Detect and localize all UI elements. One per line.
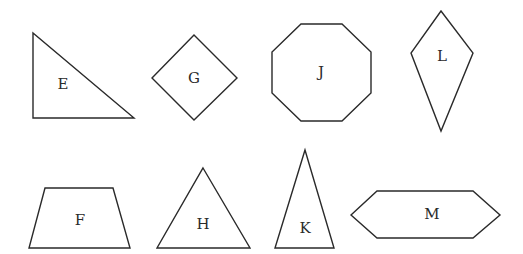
shape-g: G bbox=[152, 35, 237, 120]
shape-e-outline bbox=[33, 33, 134, 118]
shape-l-label: L bbox=[437, 47, 447, 65]
shape-h-label: H bbox=[196, 215, 209, 233]
shapes-diagram: E G J L F H K M bbox=[0, 0, 523, 254]
shape-k-label: K bbox=[299, 219, 311, 237]
shape-g-label: G bbox=[188, 69, 200, 87]
shape-l-outline bbox=[411, 11, 473, 131]
shape-f-label: F bbox=[75, 211, 85, 229]
shape-e: E bbox=[33, 33, 134, 118]
shape-m: M bbox=[351, 191, 500, 238]
shape-h: H bbox=[157, 168, 250, 248]
shape-k: K bbox=[275, 150, 334, 248]
shape-f: F bbox=[29, 188, 130, 248]
shape-j-label: J bbox=[316, 63, 324, 81]
shape-m-label: M bbox=[424, 205, 439, 223]
shape-e-label: E bbox=[58, 75, 69, 93]
shape-j: J bbox=[272, 24, 371, 121]
shape-l: L bbox=[411, 11, 473, 131]
shape-h-outline bbox=[157, 168, 250, 248]
